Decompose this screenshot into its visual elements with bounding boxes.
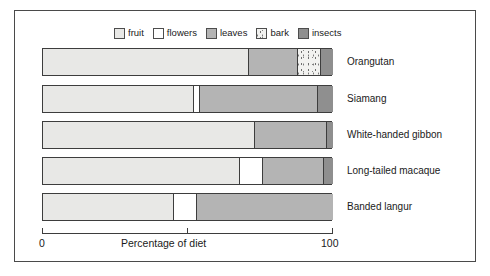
- legend-entry-flowers[interactable]: flowers: [153, 28, 197, 39]
- bar-segment-leaves[interactable]: [200, 86, 319, 112]
- bar-segment-leaves[interactable]: [263, 158, 324, 184]
- bar-row-label: Orangutan: [347, 48, 394, 76]
- legend-label-leaves: leaves: [220, 28, 247, 38]
- legend-swatch-flowers-icon: [153, 28, 164, 39]
- bar-row[interactable]: [42, 157, 332, 185]
- chart-legend: fruitflowersleavesbarkinsects: [114, 25, 341, 41]
- bar-segment-insects[interactable]: [321, 49, 333, 75]
- bar-segment-fruit[interactable]: [43, 122, 255, 148]
- legend-swatch-leaves-icon: [206, 28, 217, 39]
- bar-segment-flowers[interactable]: [240, 158, 263, 184]
- bar-segment-leaves[interactable]: [197, 194, 333, 220]
- legend-entry-fruit[interactable]: fruit: [114, 28, 144, 39]
- chart-figure-frame: fruitflowersleavesbarkinsects OrangutanS…: [14, 10, 476, 262]
- bar-segment-flowers[interactable]: [174, 194, 197, 220]
- bar-segment-fruit[interactable]: [43, 86, 194, 112]
- bar-row-label: White-handed gibbon: [347, 121, 442, 149]
- legend-swatch-insects-icon: [298, 28, 309, 39]
- x-axis-tick-100: [332, 228, 333, 234]
- x-axis-min-label: 0: [39, 238, 45, 249]
- legend-label-bark: bark: [270, 28, 288, 38]
- bar-segment-insects[interactable]: [324, 158, 333, 184]
- bar-row[interactable]: [42, 121, 332, 149]
- x-axis-tick-0: [42, 228, 43, 234]
- bar-segment-bark[interactable]: [298, 49, 321, 75]
- bar-row-label: Banded langur: [347, 193, 412, 221]
- legend-entry-leaves[interactable]: leaves: [206, 28, 247, 39]
- legend-label-fruit: fruit: [128, 28, 144, 38]
- bar-segment-fruit[interactable]: [43, 194, 174, 220]
- legend-entry-insects[interactable]: insects: [298, 28, 342, 39]
- bar-segment-insects[interactable]: [318, 86, 333, 112]
- legend-swatch-bark-icon: [256, 28, 267, 39]
- chart-plot-area: OrangutanSiamangWhite-handed gibbonLong-…: [42, 48, 332, 228]
- x-axis-tick-mid: [187, 228, 188, 234]
- bar-row[interactable]: [42, 85, 332, 113]
- x-axis-max-label: 100: [321, 238, 339, 249]
- bar-segment-leaves[interactable]: [255, 122, 328, 148]
- bar-row[interactable]: [42, 193, 332, 221]
- legend-label-insects: insects: [312, 28, 342, 38]
- x-axis-title: Percentage of diet: [121, 238, 206, 249]
- bar-segment-fruit[interactable]: [43, 158, 240, 184]
- bar-row-label: Long-tailed macaque: [347, 157, 440, 185]
- legend-entry-bark[interactable]: bark: [256, 28, 288, 39]
- bar-segment-leaves[interactable]: [249, 49, 298, 75]
- legend-swatch-fruit-icon: [114, 28, 125, 39]
- bar-row[interactable]: [42, 48, 332, 76]
- bar-row-label: Siamang: [347, 85, 386, 113]
- legend-label-flowers: flowers: [167, 28, 197, 38]
- bar-segment-fruit[interactable]: [43, 49, 249, 75]
- bar-segment-insects[interactable]: [327, 122, 333, 148]
